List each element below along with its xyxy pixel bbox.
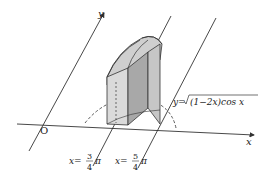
origin-label: O [40,125,48,136]
svg-text:4: 4 [87,163,92,172]
solid [107,36,162,125]
svg-text:x=: x= [69,156,82,166]
svg-text:x=: x= [115,156,128,166]
y-axis-label: y [97,8,104,19]
bound-label-left: x= 3 4 π [69,152,102,172]
svg-text:y=: y= [172,97,186,107]
x-axis [17,124,254,135]
bound-label-right: x= 5 4 π [115,152,148,172]
svg-text:5: 5 [133,152,138,161]
x-axis-label: x [246,136,252,147]
svg-text:(1−2x)cos x: (1−2x)cos x [190,97,244,107]
volume-diagram: y O x y= (1−2x)cos x x= 3 4 π x= 5 4 π [0,0,268,182]
svg-text:3: 3 [87,152,92,161]
svg-text:π: π [94,156,102,166]
svg-text:4: 4 [133,163,138,172]
svg-text:π: π [140,156,148,166]
curve-equation: y= (1−2x)cos x [172,95,258,107]
